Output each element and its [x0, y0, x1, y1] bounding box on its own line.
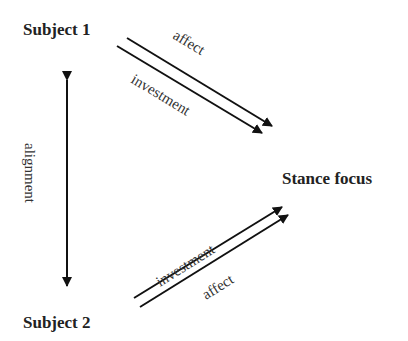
label-s2-affect: affect [199, 271, 237, 303]
node-subject-1: Subject 1 [23, 20, 91, 39]
label-s1-investment: investment [128, 71, 193, 119]
label-alignment: alignment [22, 143, 38, 204]
label-s1-affect: affect [170, 27, 208, 59]
node-subject-2: Subject 2 [23, 313, 91, 332]
node-stance-focus: Stance focus [282, 169, 373, 188]
stance-triangle-diagram: Subject 1 Subject 2 Stance focus affect … [0, 0, 408, 341]
